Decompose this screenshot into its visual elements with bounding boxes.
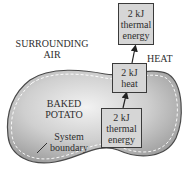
boundary-label-line1: System — [46, 131, 92, 142]
system-label: BAKED POTATO — [42, 98, 86, 120]
boundary-label-line2: boundary — [46, 142, 92, 153]
arrow-heat-to-surroundings — [132, 48, 135, 63]
surroundings-thermal-energy-box: 2 kJ thermal energy — [118, 3, 154, 45]
diagram-canvas — [0, 0, 185, 179]
surroundings-label: SURROUNDING AIR — [10, 38, 94, 60]
surroundings-label-line2: AIR — [10, 49, 94, 60]
boundary-label: System boundary — [46, 131, 92, 153]
heat-transfer-label: HEAT — [147, 53, 173, 64]
system-thermal-energy-box: 2 kJ thermal energy — [101, 108, 142, 148]
heat-box: 2 kJ heat — [112, 63, 147, 93]
system-label-line1: BAKED — [42, 98, 86, 109]
surroundings-label-line1: SURROUNDING — [10, 38, 94, 49]
potato-shape — [7, 70, 181, 163]
system-label-line2: POTATO — [42, 109, 86, 120]
